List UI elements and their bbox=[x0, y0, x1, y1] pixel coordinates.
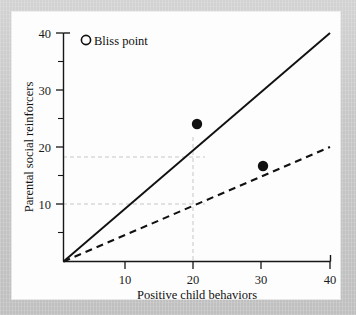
y-tick-label-10: 10 bbox=[39, 198, 52, 212]
y-tick-label-20: 20 bbox=[39, 141, 52, 155]
x-tick-label-10: 10 bbox=[119, 273, 132, 287]
series-matching-line bbox=[64, 33, 331, 262]
legend: Bliss point bbox=[81, 34, 148, 48]
x-tick-label-40: 40 bbox=[324, 273, 337, 287]
chart-canvas: 40 30 20 10 10 20 30 40 Positive child b… bbox=[0, 0, 356, 315]
legend-label-bliss-point: Bliss point bbox=[94, 34, 148, 48]
y-tick-label-40: 40 bbox=[39, 27, 52, 41]
y-tick-label-30: 30 bbox=[39, 84, 52, 98]
series-undermatching-line bbox=[64, 147, 331, 262]
data-point-undermatching bbox=[258, 161, 268, 171]
data-point-matching bbox=[192, 119, 202, 129]
y-axis-tick-labels: 40 30 20 10 bbox=[39, 27, 52, 212]
x-tick-label-20: 20 bbox=[187, 273, 200, 287]
x-axis-tick-labels: 10 20 30 40 bbox=[119, 273, 337, 287]
x-axis-major-ticks bbox=[125, 262, 330, 270]
guide-lines bbox=[63, 137, 205, 261]
y-axis-title: Parental social reinforcers bbox=[22, 82, 36, 213]
x-tick-label-30: 30 bbox=[255, 273, 268, 287]
x-axis-title: Positive child behaviors bbox=[137, 288, 257, 302]
figure-page: 40 30 20 10 10 20 30 40 Positive child b… bbox=[0, 0, 356, 315]
open-circle-icon bbox=[81, 35, 90, 44]
